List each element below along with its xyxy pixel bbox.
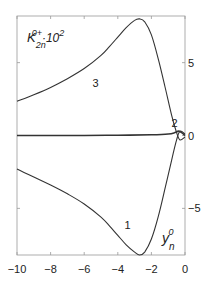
curve-label-3: 3 [93,77,99,89]
chart: −10−8−6−4−20 −505 123 K2n0+·102 yn0 [0,0,210,285]
y-tick-label: −5 [188,202,201,214]
curves [17,19,185,255]
x-tick-label: −4 [112,263,125,275]
x-axis-title: yn0 [161,227,175,252]
x-axis-ticks: −10−8−6−4−20 [8,16,188,275]
curve-label-1: 1 [125,219,131,231]
x-tick-label: 0 [182,263,188,275]
curve-label-2: 2 [172,117,178,129]
x-tick-label: −10 [8,263,27,275]
y-tick-label: 0 [188,130,194,142]
y-tick-label: 5 [188,57,194,69]
curve-2 [17,131,185,135]
curve-labels: 123 [93,77,178,230]
x-tick-label: −6 [78,263,91,275]
x-tick-label: −2 [145,263,158,275]
y-axis-title: K2n0+·102 [27,28,64,50]
curve-1 [17,131,185,255]
x-tick-label: −8 [44,263,57,275]
